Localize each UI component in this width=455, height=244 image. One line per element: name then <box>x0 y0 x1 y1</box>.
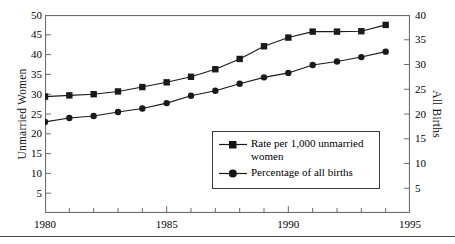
y-tick-label: 20 <box>415 109 426 120</box>
y-tick-label: 40 <box>415 10 426 21</box>
y-axis-left-ticks: 5101520253035404550 <box>16 0 42 244</box>
y-tick-label: 30 <box>31 89 42 100</box>
chart-figure: Unmarried Women All Births 5101520253035… <box>0 0 455 244</box>
x-axis-ticks: 1980198519901995 <box>0 216 455 236</box>
x-tick-label: 1995 <box>399 219 421 230</box>
legend-label-percentage: Percentage of all births <box>248 166 353 179</box>
legend-label-rate: Rate per 1,000 unmarried women <box>248 137 373 162</box>
legend-marker-square-icon <box>218 138 248 151</box>
bottom-rule-divider <box>0 236 455 237</box>
y-tick-label: 20 <box>31 128 42 139</box>
y-tick-label: 5 <box>37 188 43 199</box>
y-tick-label: 35 <box>31 69 42 80</box>
y-tick-label: 35 <box>415 34 426 45</box>
x-tick-label: 1985 <box>156 219 178 230</box>
y-tick-label: 25 <box>31 109 42 120</box>
legend-item-percentage: Percentage of all births <box>218 166 373 180</box>
y-tick-label: 40 <box>31 49 42 60</box>
legend-marker-circle-icon <box>218 167 248 180</box>
legend-item-rate: Rate per 1,000 unmarried women <box>218 137 373 162</box>
y-tick-label: 15 <box>31 148 42 159</box>
y-tick-label: 10 <box>31 168 42 179</box>
y-tick-label: 5 <box>415 183 421 194</box>
chart-legend: Rate per 1,000 unmarried women Percentag… <box>212 131 380 189</box>
y-tick-label: 50 <box>31 10 42 21</box>
y-tick-label: 10 <box>415 158 426 169</box>
y-tick-label: 45 <box>31 29 42 40</box>
y-tick-label: 30 <box>415 59 426 70</box>
x-tick-label: 1980 <box>34 219 56 230</box>
y-tick-label: 25 <box>415 84 426 95</box>
x-tick-label: 1990 <box>277 219 299 230</box>
y-tick-label: 15 <box>415 133 426 144</box>
y-axis-right-ticks: 510152025303540 <box>415 0 441 244</box>
